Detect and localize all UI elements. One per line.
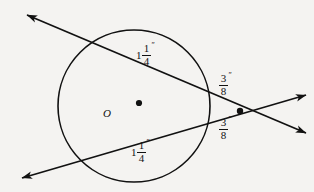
external-segment-label-upper: 3 8 ″	[219, 73, 232, 97]
chord-length-label-lower: 1 1 4 ″	[131, 140, 150, 164]
circle-center-label: O	[103, 107, 111, 119]
inch-unit-mark: ″	[229, 72, 232, 80]
fraction-one-quarter: 1 4	[137, 140, 146, 164]
inch-unit-mark: ″	[229, 116, 232, 124]
center-point-dot	[136, 100, 142, 106]
fraction-denominator: 4	[143, 56, 151, 67]
fraction-denominator: 4	[138, 153, 146, 164]
fraction-denominator: 8	[220, 130, 228, 141]
fraction-numerator: 3	[220, 117, 228, 128]
fraction-numerator: 3	[220, 73, 228, 84]
inch-unit-mark: ″	[147, 139, 150, 147]
upper-secant-line	[27, 15, 306, 133]
fraction-one-quarter: 1 4	[142, 43, 151, 67]
geometry-figure: 1 1 4 ″ 1 1 4 ″ 3 8 ″ 3 8 ″ O	[0, 0, 314, 192]
external-segment-label-lower: 3 8 ″	[219, 117, 232, 141]
inch-unit-mark: ″	[152, 42, 155, 50]
geometry-canvas	[0, 0, 314, 192]
fraction-numerator: 1	[143, 43, 151, 54]
fraction-denominator: 8	[220, 86, 228, 97]
fraction-three-eighths: 3 8	[219, 117, 228, 141]
fraction-three-eighths: 3 8	[219, 73, 228, 97]
chord-length-label-upper: 1 1 4 ″	[136, 43, 155, 67]
fraction-numerator: 1	[138, 140, 146, 151]
external-intersection-dot	[237, 108, 243, 114]
